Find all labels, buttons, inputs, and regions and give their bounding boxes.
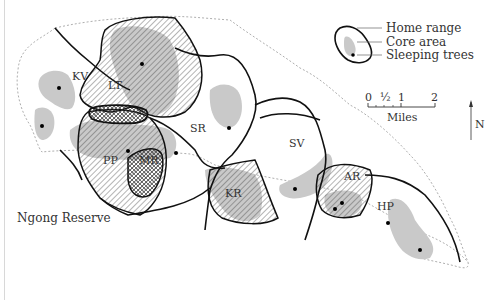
legend-home-range-label: Home range	[386, 21, 461, 35]
legend-core-area-label: Core area	[386, 35, 446, 49]
troop-label-hp: HP	[377, 200, 395, 213]
north-label: N	[475, 118, 485, 131]
troop-label-ar: AR	[343, 170, 361, 183]
troop-label-pp: PP	[103, 154, 118, 167]
troop-label-mr: MR	[139, 154, 159, 167]
troop-label-lt: LT	[108, 79, 122, 92]
scale-tick-1: 1	[398, 91, 405, 104]
legend-sleeping-trees-label: Sleeping trees	[386, 48, 474, 62]
home-range-map: KV LT SR PP MR KR SV AR HP Ngong Reserve…	[0, 0, 495, 300]
reserve-label: Ngong Reserve	[17, 211, 111, 225]
legend: Home range Core area Sleeping trees	[335, 21, 474, 63]
troop-label-kv: KV	[72, 70, 89, 83]
north-arrow: N	[469, 100, 485, 140]
troop-label-sr: SR	[190, 122, 207, 135]
scale-tick-0: 0	[365, 91, 372, 104]
scale-bar: 0 ½ 1 2 Miles	[365, 91, 438, 124]
scale-unit-label: Miles	[387, 111, 418, 124]
scale-tick-2: 2	[431, 91, 438, 104]
scale-tick-half: ½	[380, 91, 391, 104]
troop-label-kr: KR	[225, 187, 242, 200]
legend-sleeping-tree-symbol	[351, 53, 355, 57]
troop-label-sv: SV	[289, 137, 306, 150]
legend-core-area-symbol	[344, 37, 356, 56]
map-figure: KV LT SR PP MR KR SV AR HP Ngong Reserve…	[0, 0, 495, 300]
